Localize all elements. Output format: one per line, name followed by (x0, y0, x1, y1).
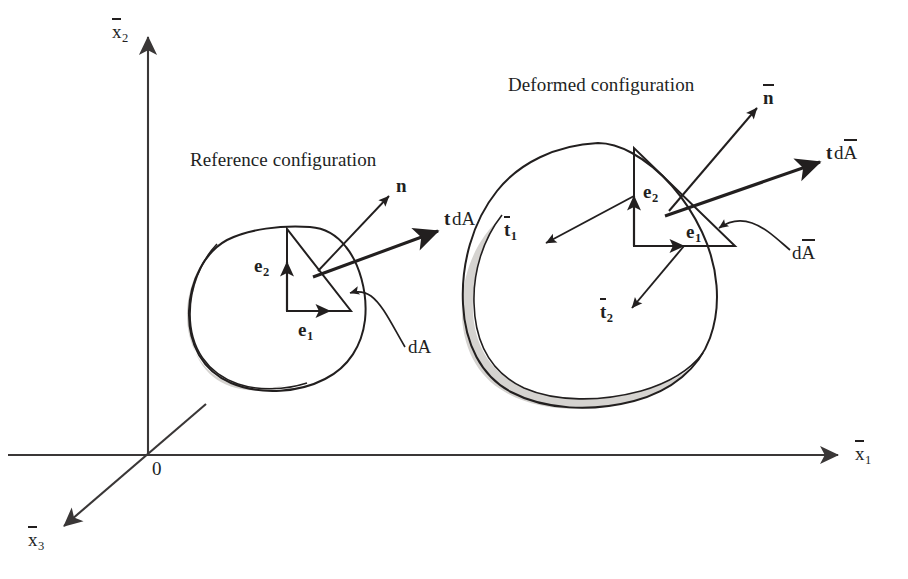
reference-basis-vectors (287, 262, 330, 311)
reference-e1-label: e1 (298, 320, 313, 339)
reference-normal-label: n (396, 176, 407, 195)
reference-e2-subscript: 2 (263, 265, 269, 279)
deformed-traction-1-arrow (546, 196, 634, 243)
deformed-traction-2-arrow (632, 246, 684, 308)
deformed-e1-label: e1 (686, 222, 701, 241)
deformed-e2-label: e2 (643, 182, 658, 201)
reference-traction-area: dA (452, 208, 475, 229)
axis-x1-label: x1 (855, 444, 871, 463)
figure-root: x2 x1 x3 0 Reference configuration e2 e1… (0, 0, 908, 579)
deformed-configuration-title: Deformed configuration (508, 75, 694, 94)
deformed-traction-2-subscript: 2 (607, 311, 613, 325)
deformed-traction-area: dA (834, 142, 857, 163)
deformed-traction-1-label: t1 (504, 220, 517, 239)
reference-configuration-title: Reference configuration (190, 150, 376, 169)
deformed-normal-arrow (669, 108, 757, 211)
origin-label: 0 (152, 459, 162, 478)
reference-e1-subscript: 1 (307, 329, 313, 343)
deformed-traction-2-label: t2 (600, 302, 613, 321)
axis-x3-line (64, 404, 206, 526)
axis-x2-label: x2 (112, 22, 128, 41)
deformed-body-outline (463, 143, 717, 408)
deformed-traction-label: t dA (826, 143, 857, 162)
reference-body-outline (189, 227, 366, 391)
deformed-normal-label: n (763, 88, 774, 107)
reference-traction-vectors (313, 196, 438, 277)
axis-x2-subscript: 2 (122, 31, 128, 45)
deformed-body-inner-edge (474, 215, 703, 399)
coordinate-axes (8, 37, 838, 526)
deformed-e2-subscript: 2 (652, 191, 658, 205)
deformed-body (462, 143, 717, 409)
deformed-e1-subscript: 1 (695, 231, 701, 245)
reference-traction-arrow (313, 231, 438, 277)
deformed-component-tractions (546, 196, 684, 308)
reference-body (187, 227, 366, 391)
reference-area-leader (350, 292, 405, 347)
reference-traction-label: t dA (444, 209, 475, 228)
reference-area-leader-line (350, 292, 405, 347)
reference-area-label: dA (408, 337, 431, 356)
reference-e2-label: e2 (254, 256, 269, 275)
deformed-traction-1-subscript: 1 (511, 229, 517, 243)
axis-x3-subscript: 3 (38, 539, 44, 553)
deformed-area-label: dA (792, 243, 815, 262)
axis-x1-subscript: 1 (865, 453, 871, 467)
axis-x3-label: x3 (28, 530, 44, 549)
